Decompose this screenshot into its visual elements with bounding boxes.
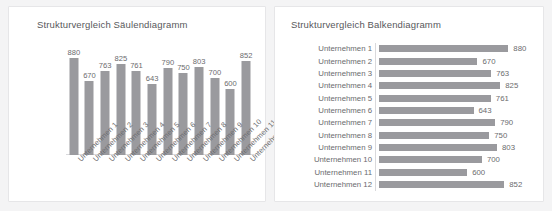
bar-track: 825 bbox=[375, 80, 533, 92]
bar-category-label: Unternehmen 3 bbox=[289, 69, 375, 78]
horizontal-bar[interactable] bbox=[379, 144, 497, 151]
bar-value-label: 600 bbox=[472, 168, 485, 177]
bar-track: 670 bbox=[375, 55, 533, 67]
bar-chart-row: Unternehmen 12852 bbox=[289, 179, 533, 191]
horizontal-bar[interactable] bbox=[379, 132, 489, 139]
bar-value-label: 643 bbox=[479, 106, 492, 115]
horizontal-bar[interactable] bbox=[379, 45, 508, 52]
bar-category-label: Unternehmen 2 bbox=[289, 57, 375, 66]
column-chart-category-axis: Unternehmen 1Unternehmen 2Unternehmen 3U… bbox=[66, 157, 254, 209]
bar-track: 803 bbox=[375, 142, 533, 154]
column-chart-card: Strukturvergleich Säulendiagramm 8806707… bbox=[8, 6, 266, 202]
horizontal-bar[interactable] bbox=[379, 82, 500, 89]
bar-track: 700 bbox=[375, 154, 533, 166]
bar-category-label: Unternehmen 9 bbox=[289, 143, 375, 152]
column-bar-slot: 880 bbox=[66, 45, 82, 155]
bar-track: 643 bbox=[375, 105, 533, 117]
bar-value-label: 803 bbox=[502, 143, 515, 152]
bar-value-label: 763 bbox=[496, 69, 509, 78]
bar-track: 880 bbox=[375, 43, 533, 55]
bar-track: 600 bbox=[375, 166, 533, 178]
bar-category-label: Unternehmen 4 bbox=[289, 81, 375, 90]
bar-chart-row: Unternehmen 6643 bbox=[289, 105, 533, 117]
bar-chart-row: Unternehmen 3763 bbox=[289, 68, 533, 80]
bar-value-label: 790 bbox=[500, 118, 513, 127]
bar-chart-row: Unternehmen 10700 bbox=[289, 154, 533, 166]
bar-category-label: Unternehmen 1 bbox=[289, 44, 375, 53]
bar-category-label: Unternehmen 12 bbox=[289, 180, 375, 189]
column-value-label: 761 bbox=[130, 61, 143, 70]
bar-track: 750 bbox=[375, 129, 533, 141]
horizontal-bar[interactable] bbox=[379, 169, 467, 176]
bar-category-label: Unternehmen 6 bbox=[289, 106, 375, 115]
bar-chart-plot-area: Unternehmen 1880Unternehmen 2670Unterneh… bbox=[289, 43, 533, 191]
horizontal-bar[interactable] bbox=[379, 58, 477, 65]
bar-value-label: 750 bbox=[494, 131, 507, 140]
horizontal-bar[interactable] bbox=[379, 156, 482, 163]
column-value-label: 803 bbox=[193, 57, 206, 66]
horizontal-bar[interactable] bbox=[379, 70, 491, 77]
bar-track: 761 bbox=[375, 92, 533, 104]
bar-value-label: 825 bbox=[505, 81, 518, 90]
bar-value-label: 852 bbox=[509, 180, 522, 189]
bar-chart-row: Unternehmen 8750 bbox=[289, 129, 533, 141]
horizontal-bar[interactable] bbox=[379, 95, 491, 102]
column-value-label: 763 bbox=[99, 61, 112, 70]
bar-chart-card: Strukturvergleich Balkendiagramm Unterne… bbox=[274, 6, 544, 202]
horizontal-bar[interactable] bbox=[379, 107, 474, 114]
bar-chart-row: Unternehmen 9803 bbox=[289, 142, 533, 154]
horizontal-bar[interactable] bbox=[379, 119, 495, 126]
bar-chart-row: Unternehmen 7790 bbox=[289, 117, 533, 129]
column-value-label: 670 bbox=[83, 71, 96, 80]
bar-value-label: 670 bbox=[482, 57, 495, 66]
bar-value-label: 880 bbox=[513, 44, 526, 53]
column-value-label: 880 bbox=[67, 48, 80, 57]
bar-category-label: Unternehmen 7 bbox=[289, 118, 375, 127]
column-value-label: 790 bbox=[161, 58, 174, 67]
horizontal-bar[interactable] bbox=[379, 181, 504, 188]
bar-category-label: Unternehmen 8 bbox=[289, 131, 375, 140]
bar-chart-row: Unternehmen 4825 bbox=[289, 80, 533, 92]
bar-chart-row: Unternehmen 5761 bbox=[289, 92, 533, 104]
charts-container: Strukturvergleich Säulendiagramm 8806707… bbox=[0, 0, 552, 211]
column-value-label: 700 bbox=[208, 68, 221, 77]
bar-category-label: Unternehmen 10 bbox=[289, 155, 375, 164]
column-value-label: 643 bbox=[146, 74, 159, 83]
bar-value-label: 761 bbox=[496, 94, 509, 103]
column-bar[interactable] bbox=[69, 58, 78, 155]
bar-chart-row: Unternehmen 1880 bbox=[289, 43, 533, 55]
bar-value-label: 700 bbox=[487, 155, 500, 164]
bar-category-label: Unternehmen 5 bbox=[289, 94, 375, 103]
column-value-label: 600 bbox=[224, 79, 237, 88]
bar-track: 763 bbox=[375, 68, 533, 80]
column-value-label: 750 bbox=[177, 63, 190, 72]
bar-chart-row: Unternehmen 11600 bbox=[289, 166, 533, 178]
bar-track: 790 bbox=[375, 117, 533, 129]
column-chart-title: Strukturvergleich Säulendiagramm bbox=[37, 19, 188, 30]
column-value-label: 825 bbox=[114, 54, 127, 63]
bar-chart-row: Unternehmen 2670 bbox=[289, 55, 533, 67]
bar-chart-title: Strukturvergleich Balkendiagramm bbox=[291, 19, 441, 30]
bar-track: 852 bbox=[375, 179, 533, 191]
bar-category-label: Unternehmen 11 bbox=[289, 168, 375, 177]
column-value-label: 852 bbox=[240, 51, 253, 60]
